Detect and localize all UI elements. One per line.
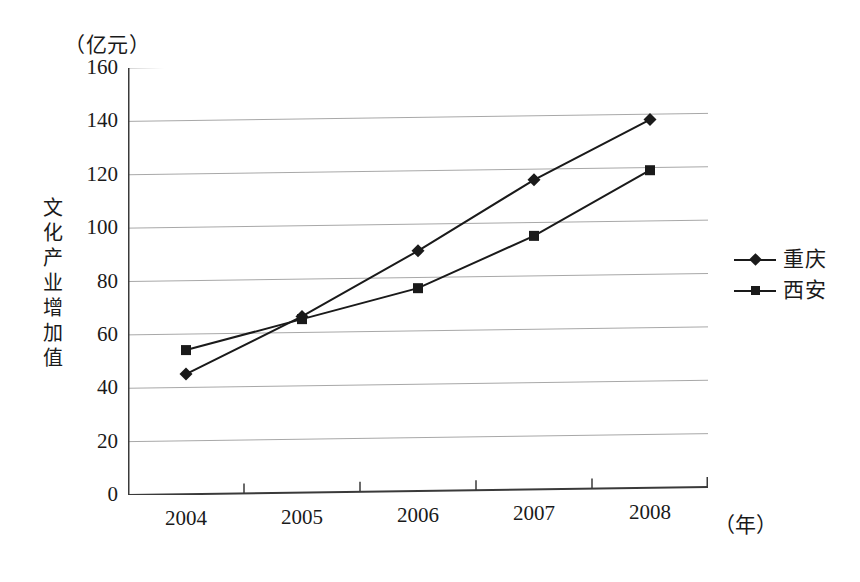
y-axis-tick-label: 120	[87, 164, 119, 185]
y-axis-tick-label: 160	[87, 57, 119, 78]
y-axis-tick-label: 60	[97, 324, 118, 345]
gridline	[128, 434, 708, 442]
legend-label: 西安	[783, 275, 827, 306]
y-axis-title: 文化产业增加值	[40, 196, 66, 371]
x-axis-tick-label: 2006	[397, 505, 439, 526]
gridline	[128, 274, 708, 282]
data-point-marker-square[interactable]	[413, 283, 423, 293]
data-point-marker-diamond[interactable]	[412, 244, 425, 257]
line-chart-svg	[128, 68, 708, 495]
gridline	[128, 167, 708, 175]
x-axis-tick-label: 2005	[281, 507, 323, 528]
y-axis-title-char: 化	[40, 221, 66, 246]
y-axis-title-char: 值	[40, 346, 66, 371]
y-axis-title-char: 产	[40, 246, 66, 271]
data-point-marker-square[interactable]	[645, 165, 655, 175]
chart-figure: （亿元） 文化产业增加值 020406080100120140160200420…	[0, 0, 860, 582]
legend-marker-glyph	[751, 286, 760, 295]
y-axis-title-char: 文	[40, 196, 66, 221]
x-axis-unit-label: （年）	[714, 508, 777, 538]
data-point-marker-square[interactable]	[297, 314, 307, 324]
y-axis-title-char: 加	[40, 321, 66, 346]
y-axis-tick-label: 140	[87, 110, 119, 131]
gridline	[128, 113, 708, 121]
y-axis-tick-label: 0	[108, 484, 119, 505]
data-point-marker-square[interactable]	[181, 345, 191, 355]
y-axis-tick-label: 20	[97, 431, 118, 452]
legend-item-2[interactable]: 西安	[734, 275, 827, 306]
chart-legend: 重庆西安	[734, 244, 827, 306]
legend-label: 重庆	[783, 244, 827, 275]
data-point-marker-diamond[interactable]	[644, 113, 657, 126]
x-axis-tick-label: 2008	[629, 502, 671, 523]
gridline	[128, 220, 708, 228]
x-axis-line	[128, 487, 708, 495]
y-axis-title-char: 业	[40, 271, 66, 296]
legend-marker-square-icon	[734, 285, 776, 297]
data-point-marker-diamond[interactable]	[528, 173, 541, 186]
x-axis-tick-label: 2007	[513, 503, 555, 524]
plot-area: 0204060801001201401602004200520062007200…	[128, 68, 708, 495]
series-line-2	[186, 170, 650, 350]
gridline	[128, 380, 708, 388]
y-axis-tick-label: 40	[97, 377, 118, 398]
y-axis-unit-label: （亿元）	[64, 28, 150, 58]
legend-marker-glyph	[749, 253, 762, 266]
x-axis-tick-label: 2004	[165, 508, 207, 529]
gridline	[128, 327, 708, 335]
data-point-marker-square[interactable]	[529, 231, 539, 241]
y-axis-tick-label: 80	[97, 271, 118, 292]
legend-item-1[interactable]: 重庆	[734, 244, 827, 275]
y-axis-title-char: 增	[40, 296, 66, 321]
data-point-marker-diamond[interactable]	[180, 368, 193, 381]
legend-marker-diamond-icon	[734, 254, 776, 266]
y-axis-tick-label: 100	[87, 217, 119, 238]
